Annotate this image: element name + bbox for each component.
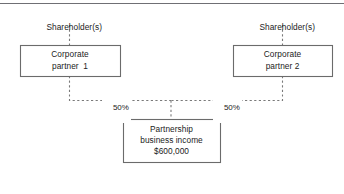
node-partnership-business-income: Partnership business income $600,000 xyxy=(123,119,220,162)
diagram-canvas: Shareholder(s) Shareholder(s) Corporate … xyxy=(0,0,344,194)
edge-label-share-left: 50% xyxy=(102,93,131,123)
node-corporate-partner-2: Corporate partner 2 xyxy=(233,45,332,76)
shareholders-left-text: Shareholder(s) xyxy=(46,22,102,32)
partnership-amount: $600,000 xyxy=(154,146,189,157)
partnership-line-2: business income xyxy=(140,135,203,146)
share-left-text: 50% xyxy=(113,103,129,112)
corporate-partner-1-line-1: Corporate xyxy=(51,49,88,60)
edge-label-share-right: 50% xyxy=(213,93,242,123)
node-corporate-partner-1: Corporate partner 1 xyxy=(20,45,120,76)
corporate-partner-2-line-1: Corporate xyxy=(264,49,301,60)
shareholders-right-text: Shareholder(s) xyxy=(259,22,315,32)
share-right-text: 50% xyxy=(224,103,240,112)
corporate-partner-2-line-2: partner 2 xyxy=(266,61,300,72)
partnership-line-1: Partnership xyxy=(150,124,193,135)
label-shareholders-right: Shareholder(s) xyxy=(246,11,319,45)
corporate-partner-1-line-2: partner 1 xyxy=(52,61,88,72)
label-shareholders-left: Shareholder(s) xyxy=(33,11,106,45)
